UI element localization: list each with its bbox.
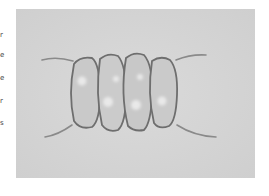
micrograph-image [16, 9, 255, 178]
text-fragment: e [0, 52, 6, 58]
text-fragment: s [0, 120, 6, 126]
text-fragment: r [0, 32, 6, 38]
text-fragment: r [0, 98, 6, 104]
text-fragment: e [0, 75, 6, 81]
algae-colony-illustration [16, 9, 255, 178]
